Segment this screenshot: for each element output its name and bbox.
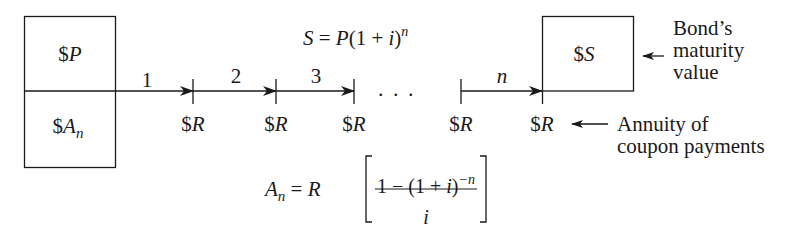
left-box bbox=[25, 17, 116, 168]
present-value-label: $P bbox=[58, 44, 81, 65]
period-label-2: 2 bbox=[231, 66, 242, 87]
annuity-value-label: $An bbox=[53, 116, 84, 137]
payment-label-n-minus-1: $R bbox=[449, 114, 472, 135]
fraction-numerator: 1 − (1 + i)−n bbox=[366, 175, 486, 198]
compound-formula: S = P(1 + i)n bbox=[303, 28, 408, 49]
annuity-fraction: 1 − (1 + i)−n i bbox=[366, 175, 486, 229]
fraction-denominator: i bbox=[366, 206, 486, 229]
period-label-3: 3 bbox=[311, 66, 322, 87]
annuity-formula-lhs: An = R bbox=[265, 179, 321, 200]
payment-label-1: $R bbox=[181, 114, 204, 135]
payment-label-n: $R bbox=[530, 114, 553, 135]
payment-label-3: $R bbox=[342, 114, 365, 135]
maturity-value-label: $S bbox=[574, 44, 595, 65]
annuity-annotation: Annuity of coupon payments bbox=[617, 113, 765, 157]
payment-label-2: $R bbox=[264, 114, 287, 135]
ellipsis: . . . bbox=[378, 78, 416, 100]
period-label-n: n bbox=[497, 66, 508, 87]
period-label-1: 1 bbox=[142, 70, 153, 91]
maturity-annotation: Bond’s maturity value bbox=[673, 17, 744, 83]
